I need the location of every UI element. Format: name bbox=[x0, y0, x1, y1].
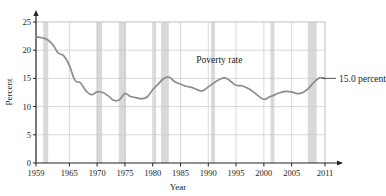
recession-band bbox=[43, 22, 48, 163]
y-axis-title: Percent bbox=[4, 78, 14, 105]
x-tick-label: 2005 bbox=[283, 168, 300, 178]
x-axis-title: Year bbox=[170, 182, 187, 192]
x-tick-label: 1990 bbox=[200, 168, 217, 178]
x-tick-label: 1959 bbox=[28, 168, 45, 178]
recession-band bbox=[308, 22, 317, 163]
x-axis-arrow bbox=[337, 160, 343, 165]
recession-band bbox=[161, 22, 169, 163]
x-tick-label: 1995 bbox=[228, 168, 245, 178]
poverty-rate-chart: 0510152025 19591965197019751980198519901… bbox=[0, 0, 386, 196]
x-tick-label: 1975 bbox=[116, 168, 133, 178]
y-tick-label: 10 bbox=[23, 102, 32, 112]
y-tick-label: 20 bbox=[23, 45, 32, 55]
x-axis: 1959196519701975198019851990199520002005… bbox=[28, 160, 344, 178]
y-axis-arrow bbox=[33, 10, 38, 16]
y-axis: 0510152025 bbox=[23, 10, 39, 168]
y-tick-label: 15 bbox=[23, 73, 32, 83]
recession-band bbox=[153, 22, 156, 163]
series-label: Poverty rate bbox=[196, 55, 242, 65]
y-tick-label: 0 bbox=[27, 158, 31, 168]
endpoint-callout-label: 15.0 percent bbox=[339, 74, 386, 84]
y-tick-label: 25 bbox=[23, 17, 32, 27]
y-tick-label: 5 bbox=[27, 130, 31, 140]
x-tick-label: 2011 bbox=[317, 168, 334, 178]
x-tick-label: 2000 bbox=[255, 168, 272, 178]
x-tick-label: 1970 bbox=[89, 168, 106, 178]
recession-band bbox=[211, 22, 215, 163]
chart-canvas: 0510152025 19591965197019751980198519901… bbox=[0, 0, 386, 196]
x-tick-label: 1965 bbox=[61, 168, 78, 178]
x-tick-label: 1980 bbox=[144, 168, 161, 178]
recession-bands bbox=[43, 22, 316, 163]
recession-band bbox=[271, 22, 275, 163]
x-tick-label: 1985 bbox=[172, 168, 189, 178]
